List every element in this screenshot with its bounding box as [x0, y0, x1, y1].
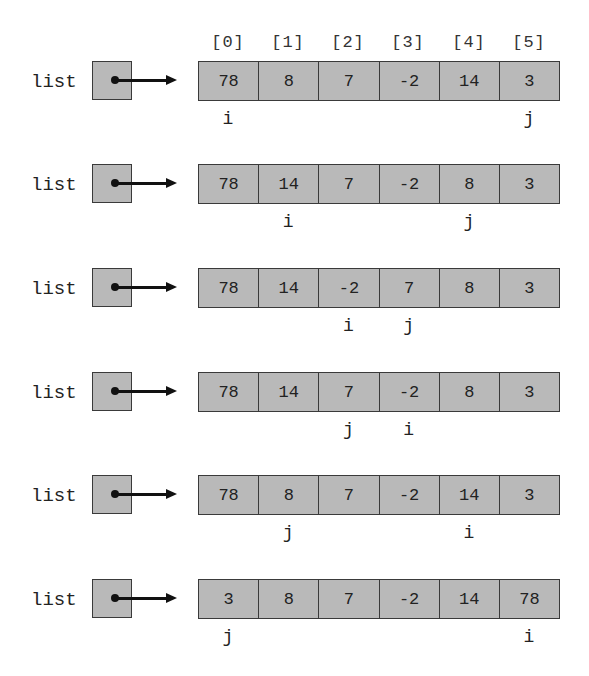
index-marker-i: i	[318, 316, 378, 336]
array-cell: 7	[319, 580, 379, 618]
array-cell: 8	[440, 165, 500, 203]
array-state-row: list78147-283ji	[0, 372, 589, 452]
array-cell: -2	[380, 373, 440, 411]
arrowhead-icon	[166, 75, 177, 85]
array-cell: 14	[259, 373, 319, 411]
array-cell: 3	[500, 62, 559, 100]
index-marker-i: i	[379, 420, 439, 440]
pointer-arrow-icon	[115, 182, 168, 185]
array-cells: 7814-2783	[198, 268, 560, 308]
array-cell: 78	[500, 580, 559, 618]
index-marker-i: i	[258, 212, 318, 232]
index-marker-j: j	[258, 523, 318, 543]
array-cells: 387-21478	[198, 579, 560, 619]
array-cell: 78	[199, 165, 259, 203]
array-cell: 7	[319, 373, 379, 411]
array-cells: 78147-283	[198, 372, 560, 412]
array-state-row: list387-21478ji	[0, 579, 589, 659]
array-cell: 8	[259, 580, 319, 618]
array-cell: -2	[380, 62, 440, 100]
pointer-arrow-icon	[115, 286, 168, 289]
index-label: [0]	[198, 33, 258, 52]
arrowhead-icon	[166, 386, 177, 396]
index-label: [5]	[499, 33, 559, 52]
arrowhead-icon	[166, 593, 177, 603]
array-cell: 14	[440, 476, 500, 514]
array-cell: 14	[440, 62, 500, 100]
array-cell: 78	[199, 373, 259, 411]
array-cell: 7	[380, 269, 440, 307]
array-cell: 8	[440, 373, 500, 411]
array-cell: 7	[319, 476, 379, 514]
index-marker-j: j	[198, 627, 258, 647]
index-label: [2]	[318, 33, 378, 52]
variable-label: list	[31, 589, 77, 611]
array-cell: -2	[380, 165, 440, 203]
array-cell: 78	[199, 476, 259, 514]
array-cell: -2	[380, 580, 440, 618]
array-cell: 3	[500, 476, 559, 514]
array-cell: 3	[500, 373, 559, 411]
variable-label: list	[31, 278, 77, 300]
array-cell: 3	[199, 580, 259, 618]
variable-label: list	[31, 382, 77, 404]
arrowhead-icon	[166, 282, 177, 292]
index-marker-i: i	[198, 109, 258, 129]
pointer-arrow-icon	[115, 390, 168, 393]
array-cell: 7	[319, 165, 379, 203]
array-cell: -2	[380, 476, 440, 514]
index-marker-j: j	[318, 420, 378, 440]
pointer-arrow-icon	[115, 79, 168, 82]
arrowhead-icon	[166, 489, 177, 499]
array-state-row: list7887-2143ij	[0, 61, 589, 141]
index-labels: [0] [1] [2] [3] [4] [5]	[198, 33, 560, 55]
array-cell: 78	[199, 269, 259, 307]
array-cell: 3	[500, 269, 559, 307]
pointer-arrow-icon	[115, 493, 168, 496]
array-cells: 78147-283	[198, 164, 560, 204]
array-cell: 14	[440, 580, 500, 618]
arrowhead-icon	[166, 178, 177, 188]
index-marker-j: j	[439, 212, 499, 232]
array-cell: 3	[500, 165, 559, 203]
array-state-row: list7814-2783ij	[0, 268, 589, 348]
variable-label: list	[31, 485, 77, 507]
index-marker-j: j	[379, 316, 439, 336]
variable-label: list	[31, 71, 77, 93]
index-marker-i: i	[499, 627, 559, 647]
array-state-row: list78147-283ij	[0, 164, 589, 244]
array-cell: 78	[199, 62, 259, 100]
array-cell: 14	[259, 165, 319, 203]
array-cells: 7887-2143	[198, 61, 560, 101]
index-label: [4]	[439, 33, 499, 52]
variable-label: list	[31, 174, 77, 196]
index-label: [1]	[258, 33, 318, 52]
index-marker-j: j	[499, 109, 559, 129]
array-cell: 8	[440, 269, 500, 307]
array-cell: 8	[259, 62, 319, 100]
array-cell: 7	[319, 62, 379, 100]
array-cells: 7887-2143	[198, 475, 560, 515]
index-label: [3]	[378, 33, 438, 52]
pointer-arrow-icon	[115, 597, 168, 600]
array-cell: -2	[319, 269, 379, 307]
index-marker-i: i	[439, 523, 499, 543]
array-cell: 14	[259, 269, 319, 307]
array-cell: 8	[259, 476, 319, 514]
array-state-row: list7887-2143ji	[0, 475, 589, 555]
